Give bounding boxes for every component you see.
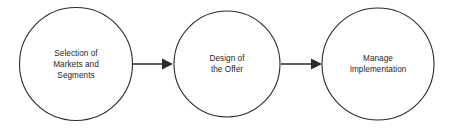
node-label-line: Markets and: [53, 59, 99, 70]
node-label-design-of-the-offer: Design of the Offer: [209, 53, 244, 75]
node-label-line: Implementation: [350, 64, 407, 75]
node-label-selection-of-markets-and-segments: Selection of Markets and Segments: [53, 48, 99, 81]
process-flow-diagram: Selection of Markets and Segments Design…: [0, 0, 457, 137]
node-label-line: Design of: [209, 53, 244, 64]
arrow-connector-1: [133, 59, 173, 70]
arrow-head-icon-1: [162, 59, 173, 70]
node-label-line: Selection of: [53, 48, 99, 59]
node-label-line: the Offer: [209, 64, 244, 75]
node-label-line: Segments: [53, 70, 99, 81]
arrow-connector-2: [281, 59, 322, 70]
node-label-line: Manage: [350, 53, 407, 64]
node-label-manage-implementation: Manage Implementation: [350, 53, 407, 75]
arrow-head-icon-2: [311, 59, 322, 70]
